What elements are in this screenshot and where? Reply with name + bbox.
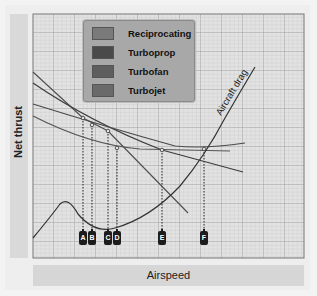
- legend-swatch: [92, 84, 114, 97]
- legend: Reciprocating Turboprop Turbofan Turboje…: [83, 20, 195, 102]
- marker-badge-a: A: [79, 231, 87, 245]
- marker-badge-d: D: [113, 231, 121, 245]
- legend-label: Turbofan: [128, 66, 168, 77]
- legend-label: Turbojet: [128, 85, 165, 96]
- x-axis-label: Airspeed: [33, 265, 304, 286]
- legend-label: Reciprocating: [128, 28, 191, 39]
- legend-item-turbofan: Turbofan: [92, 65, 168, 77]
- legend-label: Turboprop: [128, 47, 175, 58]
- legend-item-reciprocating: Reciprocating: [92, 27, 191, 39]
- x-axis-band: Airspeed: [33, 265, 304, 286]
- marker-badge-c: C: [104, 231, 112, 245]
- legend-swatch: [92, 65, 114, 78]
- legend-swatch: [92, 46, 114, 59]
- marker-badge-b: B: [88, 231, 96, 245]
- legend-item-turbojet: Turbojet: [92, 84, 165, 96]
- legend-swatch: [92, 27, 114, 40]
- marker-badge-f: F: [200, 231, 208, 245]
- legend-item-turboprop: Turboprop: [92, 46, 175, 58]
- marker-badge-e: E: [158, 231, 166, 245]
